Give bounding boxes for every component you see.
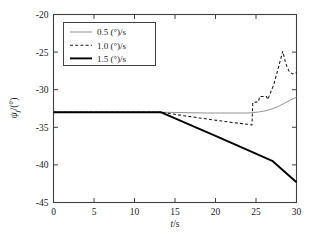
series-0-5-s: [54, 97, 297, 113]
series-1-5-s: [54, 112, 297, 182]
chart-legend: 0.5 (°)/s1.0 (°)/s1.5 (°)/s: [64, 23, 156, 66]
y-tick-label: -35: [36, 123, 49, 133]
figure-container: 051015202530 -45-40-35-30-25-20 t/s ψf/(…: [0, 0, 311, 242]
y-tick-label: -20: [36, 10, 49, 20]
y-tick-label: -40: [36, 160, 49, 170]
x-tick-label: 0: [51, 207, 56, 217]
x-tick-label: 10: [130, 207, 140, 217]
x-tick-label: 25: [251, 207, 261, 217]
legend-label-1: 0.5 (°)/s: [97, 27, 127, 37]
x-tick-label: 5: [92, 207, 97, 217]
y-axis-label: ψf/(°): [9, 98, 22, 119]
y-tick-label: -30: [36, 85, 49, 95]
x-axis-tick-labels: 051015202530: [51, 207, 301, 217]
x-axis-label: t/s: [171, 219, 180, 229]
y-tick-label: -25: [36, 48, 49, 58]
x-tick-label: 15: [170, 207, 180, 217]
x-tick-label: 30: [292, 207, 302, 217]
y-tick-label: -45: [36, 198, 49, 208]
y-axis-tick-labels: -45-40-35-30-25-20: [36, 10, 49, 208]
data-series-group: [54, 51, 297, 182]
legend-label-2: 1.0 (°)/s: [97, 41, 127, 51]
legend-label-3: 1.5 (°)/s: [97, 54, 127, 64]
y-axis-label-text: ψf/(°): [9, 98, 22, 119]
x-tick-label: 20: [211, 207, 221, 217]
chart-canvas: 051015202530 -45-40-35-30-25-20 t/s ψf/(…: [0, 0, 311, 242]
